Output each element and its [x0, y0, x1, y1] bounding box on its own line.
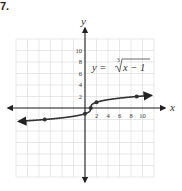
y-tick-label: 2: [79, 93, 82, 100]
data-point: [135, 94, 139, 98]
radical-index: 3: [117, 57, 120, 63]
x-tick-label: 10: [139, 112, 146, 119]
x-tick-label: 6: [118, 112, 122, 119]
cube-root-graph: 246810246810 x y y = 3 x − 1: [0, 0, 182, 191]
data-point: [83, 112, 87, 116]
y-tick-label: 8: [79, 58, 82, 65]
y-tick-label: 10: [76, 47, 83, 54]
equation-lhs: y =: [91, 62, 106, 73]
x-tick-label: 2: [95, 112, 98, 119]
axes: [8, 28, 165, 182]
x-axis-label: x: [169, 101, 175, 113]
equation-label: y = 3 x − 1: [91, 57, 150, 73]
data-point: [43, 117, 47, 121]
y-axis-label: y: [80, 15, 86, 27]
x-tick-label: 4: [106, 112, 110, 119]
x-tick-label: 8: [129, 112, 132, 119]
data-point: [94, 100, 98, 104]
data-point: [89, 106, 93, 110]
equation-radicand: x − 1: [122, 62, 145, 73]
